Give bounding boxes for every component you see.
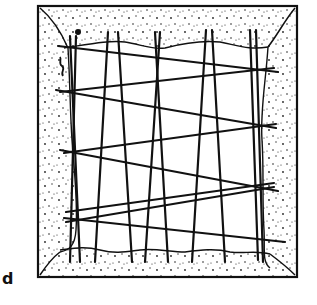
- panel-label: d: [2, 271, 13, 287]
- inner-field: [60, 41, 270, 268]
- weaving-frame-diagram: [0, 0, 317, 305]
- marker-dot: [75, 29, 81, 35]
